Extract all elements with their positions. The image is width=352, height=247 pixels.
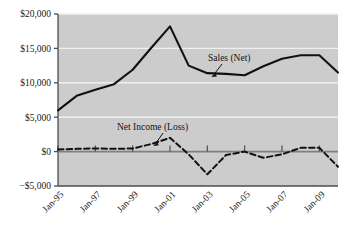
x-axis-tick-label: Jan-05 bbox=[227, 189, 252, 214]
y-axis-tick-label: $15,000 bbox=[20, 44, 51, 54]
plot-area-background bbox=[58, 14, 338, 186]
y-axis-tick-labels: $20,000$15,000$10,000$5,000$0−$5,000 bbox=[20, 9, 52, 191]
annotation-label-sales: Sales (Net) bbox=[208, 53, 250, 64]
x-axis-tick-label: Jan-97 bbox=[78, 189, 103, 214]
y-axis-tick-label: $20,000 bbox=[20, 9, 51, 19]
x-axis-tick-label: Jan-01 bbox=[152, 189, 177, 214]
x-axis-tick-label: Jan-99 bbox=[115, 189, 140, 214]
y-axis-tick-label: $0 bbox=[42, 147, 52, 157]
x-axis-tick-label: Jan-07 bbox=[264, 189, 289, 214]
financial-line-chart: $20,000$15,000$10,000$5,000$0−$5,000 Jan… bbox=[0, 0, 352, 247]
y-axis-tick-label: −$5,000 bbox=[20, 181, 52, 191]
chart-container: $20,000$15,000$10,000$5,000$0−$5,000 Jan… bbox=[0, 0, 352, 247]
y-axis-tick-label: $10,000 bbox=[20, 78, 51, 88]
x-axis-tick-label: Jan-95 bbox=[40, 189, 65, 214]
x-axis-tick-label: Jan-03 bbox=[190, 189, 215, 214]
annotation-label-net-income: Net Income (Loss) bbox=[117, 122, 188, 133]
x-axis-tick-labels: Jan-95Jan-97Jan-99Jan-01Jan-03Jan-05Jan-… bbox=[40, 189, 326, 214]
x-axis-tick-label: Jan-09 bbox=[302, 189, 327, 214]
y-axis-tick-label: $5,000 bbox=[25, 113, 51, 123]
